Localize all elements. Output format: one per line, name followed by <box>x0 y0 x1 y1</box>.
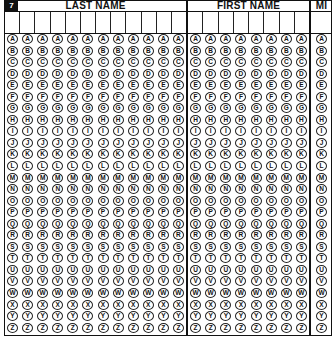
bubble-t[interactable]: T <box>98 253 109 263</box>
bubble-n[interactable]: N <box>173 184 184 194</box>
bubble-z[interactable]: Z <box>190 323 201 333</box>
bubble-i[interactable]: I <box>143 126 154 136</box>
bubble-m[interactable]: M <box>173 173 184 183</box>
bubble-g[interactable]: G <box>128 103 139 113</box>
bubble-o[interactable]: O <box>113 196 124 206</box>
bubble-z[interactable]: Z <box>67 323 78 333</box>
bubble-f[interactable]: F <box>143 92 154 102</box>
first-writein-box-8[interactable] <box>295 12 309 33</box>
bubble-r[interactable]: R <box>316 230 327 240</box>
bubble-p[interactable]: P <box>251 207 262 217</box>
last-writein-box-1[interactable] <box>5 12 20 33</box>
bubble-x[interactable]: X <box>52 300 63 310</box>
bubble-q[interactable]: Q <box>251 219 262 229</box>
bubble-m[interactable]: M <box>316 173 327 183</box>
last-writein-box-7[interactable] <box>96 12 111 33</box>
bubble-s[interactable]: S <box>173 242 184 252</box>
bubble-i[interactable]: I <box>205 126 216 136</box>
bubble-o[interactable]: O <box>158 196 169 206</box>
bubble-l[interactable]: L <box>113 161 124 171</box>
bubble-e[interactable]: E <box>281 80 292 90</box>
bubble-i[interactable]: I <box>113 126 124 136</box>
bubble-k[interactable]: K <box>190 149 201 159</box>
bubble-m[interactable]: M <box>220 173 231 183</box>
bubble-t[interactable]: T <box>205 253 216 263</box>
bubble-d[interactable]: D <box>220 69 231 79</box>
bubble-m[interactable]: M <box>7 173 18 183</box>
bubble-d[interactable]: D <box>113 69 124 79</box>
bubble-l[interactable]: L <box>98 161 109 171</box>
last-writein-box-3[interactable] <box>35 12 50 33</box>
bubble-r[interactable]: R <box>190 230 201 240</box>
bubble-a[interactable]: A <box>7 34 18 44</box>
bubble-r[interactable]: R <box>52 230 63 240</box>
bubble-p[interactable]: P <box>266 207 277 217</box>
bubble-i[interactable]: I <box>128 126 139 136</box>
bubble-h[interactable]: H <box>67 115 78 125</box>
bubble-i[interactable]: I <box>37 126 48 136</box>
bubble-s[interactable]: S <box>220 242 231 252</box>
bubble-i[interactable]: I <box>281 126 292 136</box>
last-writein-box-4[interactable] <box>51 12 66 33</box>
bubble-s[interactable]: S <box>205 242 216 252</box>
bubble-y[interactable]: Y <box>266 311 277 321</box>
bubble-i[interactable]: I <box>22 126 33 136</box>
bubble-e[interactable]: E <box>128 80 139 90</box>
bubble-t[interactable]: T <box>281 253 292 263</box>
bubble-y[interactable]: Y <box>98 311 109 321</box>
bubble-c[interactable]: C <box>235 57 246 67</box>
bubble-m[interactable]: M <box>52 173 63 183</box>
bubble-k[interactable]: K <box>205 149 216 159</box>
bubble-y[interactable]: Y <box>235 311 246 321</box>
first-writein-box-4[interactable] <box>234 12 249 33</box>
bubble-k[interactable]: K <box>266 149 277 159</box>
bubble-f[interactable]: F <box>37 92 48 102</box>
bubble-f[interactable]: F <box>220 92 231 102</box>
bubble-d[interactable]: D <box>22 69 33 79</box>
bubble-v[interactable]: V <box>158 276 169 286</box>
bubble-b[interactable]: B <box>220 46 231 56</box>
bubble-b[interactable]: B <box>158 46 169 56</box>
last-writein-box-5[interactable] <box>66 12 81 33</box>
bubble-q[interactable]: Q <box>235 219 246 229</box>
bubble-u[interactable]: U <box>251 265 262 275</box>
bubble-w[interactable]: W <box>143 288 154 298</box>
bubble-s[interactable]: S <box>67 242 78 252</box>
bubble-z[interactable]: Z <box>281 323 292 333</box>
bubble-c[interactable]: C <box>220 57 231 67</box>
bubble-x[interactable]: X <box>82 300 93 310</box>
bubble-m[interactable]: M <box>67 173 78 183</box>
bubble-n[interactable]: N <box>251 184 262 194</box>
bubble-o[interactable]: O <box>266 196 277 206</box>
bubble-w[interactable]: W <box>128 288 139 298</box>
bubble-b[interactable]: B <box>37 46 48 56</box>
bubble-e[interactable]: E <box>173 80 184 90</box>
bubble-o[interactable]: O <box>190 196 201 206</box>
bubble-n[interactable]: N <box>98 184 109 194</box>
bubble-b[interactable]: B <box>143 46 154 56</box>
bubble-b[interactable]: B <box>266 46 277 56</box>
bubble-p[interactable]: P <box>205 207 216 217</box>
bubble-o[interactable]: O <box>251 196 262 206</box>
bubble-w[interactable]: W <box>67 288 78 298</box>
bubble-x[interactable]: X <box>22 300 33 310</box>
bubble-z[interactable]: Z <box>22 323 33 333</box>
bubble-o[interactable]: O <box>7 196 18 206</box>
bubble-b[interactable]: B <box>67 46 78 56</box>
bubble-o[interactable]: O <box>98 196 109 206</box>
bubble-f[interactable]: F <box>190 92 201 102</box>
bubble-o[interactable]: O <box>316 196 327 206</box>
bubble-z[interactable]: Z <box>7 323 18 333</box>
bubble-j[interactable]: J <box>190 138 201 148</box>
bubble-r[interactable]: R <box>67 230 78 240</box>
bubble-z[interactable]: Z <box>52 323 63 333</box>
bubble-n[interactable]: N <box>113 184 124 194</box>
bubble-v[interactable]: V <box>296 276 307 286</box>
bubble-g[interactable]: G <box>266 103 277 113</box>
bubble-l[interactable]: L <box>173 161 184 171</box>
bubble-j[interactable]: J <box>52 138 63 148</box>
bubble-i[interactable]: I <box>316 126 327 136</box>
bubble-o[interactable]: O <box>82 196 93 206</box>
bubble-k[interactable]: K <box>128 149 139 159</box>
bubble-h[interactable]: H <box>52 115 63 125</box>
